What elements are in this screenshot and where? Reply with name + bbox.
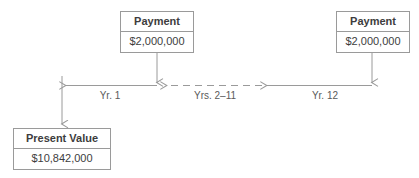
present-value-timeline-diagram: Payment $2,000,000 Payment $2,000,000 Pr… — [0, 0, 419, 178]
payment-box-1-header: Payment — [121, 12, 193, 32]
timeline-label-yrs-2-11: Yrs. 2–11 — [175, 90, 255, 101]
timeline-label-yr-1: Yr. 1 — [70, 90, 150, 101]
payment-box-1-value: $2,000,000 — [121, 32, 193, 52]
payment-box-2: Payment $2,000,000 — [336, 11, 410, 53]
present-value-box: Present Value $10,842,000 — [13, 128, 111, 170]
payment-box-1: Payment $2,000,000 — [120, 11, 194, 53]
timeline-label-yr-12: Yr. 12 — [285, 90, 365, 101]
payment-box-2-header: Payment — [337, 12, 409, 32]
present-value-box-header: Present Value — [14, 129, 110, 149]
payment-box-2-value: $2,000,000 — [337, 32, 409, 52]
present-value-box-value: $10,842,000 — [14, 149, 110, 169]
